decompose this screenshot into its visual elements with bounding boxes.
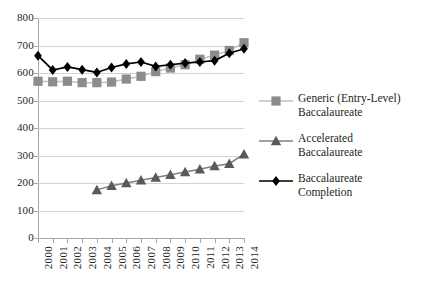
data-point-marker <box>92 185 102 194</box>
data-point-marker <box>64 62 72 72</box>
data-point-marker <box>195 164 205 173</box>
x-axis-tick-mark <box>244 239 245 243</box>
data-point-marker <box>92 78 101 87</box>
legend-entry-3[interactable]: BaccalaureateCompletion <box>258 172 436 199</box>
data-point-marker <box>108 63 116 73</box>
x-axis-tick-mark <box>82 239 83 243</box>
legend-label: Baccalaureate <box>298 106 436 120</box>
data-point-marker <box>272 176 280 186</box>
y-axis-tick-label: 400 <box>0 122 34 133</box>
x-axis-tick-label: 2013 <box>234 246 245 269</box>
y-axis-tick-label: 700 <box>0 40 34 51</box>
series-line <box>38 49 244 73</box>
data-point-marker <box>166 63 175 72</box>
gridline <box>38 73 244 74</box>
data-point-marker <box>210 51 219 60</box>
y-axis-tick-label: 100 <box>0 205 34 216</box>
chart-legend: Generic (Entry-Level)BaccalaureateAccele… <box>258 92 436 212</box>
data-point-marker <box>78 78 87 87</box>
data-point-marker <box>165 170 175 179</box>
data-point-marker <box>225 46 234 55</box>
x-axis-tick-label: 2008 <box>161 246 172 269</box>
x-axis-tick-mark <box>38 239 39 243</box>
data-point-marker <box>180 167 190 176</box>
series-line <box>97 154 244 190</box>
x-axis-tick-mark <box>141 239 142 243</box>
legend-entry-2[interactable]: AcceleratedBaccalaureate <box>258 132 436 159</box>
y-axis-tick-label: 0 <box>0 232 34 243</box>
legend-marker-diamond-icon <box>258 174 294 186</box>
gridline <box>38 101 244 102</box>
data-point-marker <box>271 96 280 105</box>
gridline <box>38 46 244 47</box>
legend-entry-1[interactable]: Generic (Entry-Level)Baccalaureate <box>258 92 436 119</box>
data-point-marker <box>209 161 219 170</box>
data-point-marker <box>224 159 234 168</box>
y-axis-tick-label: 200 <box>0 177 34 188</box>
gridline <box>38 128 244 129</box>
x-axis-tick-label: 2003 <box>87 246 98 269</box>
x-axis-tick-mark <box>156 239 157 243</box>
data-point-marker <box>63 77 72 86</box>
data-point-marker <box>239 149 249 158</box>
y-axis-tick-label: 300 <box>0 150 34 161</box>
x-axis-tick-mark <box>200 239 201 243</box>
data-point-marker <box>122 74 131 83</box>
data-point-marker <box>151 67 160 76</box>
x-axis-tick-label: 2002 <box>72 246 83 269</box>
x-axis-tick-label: 2012 <box>220 246 231 269</box>
data-point-marker <box>195 55 204 64</box>
data-point-marker <box>181 60 190 69</box>
legend-marker-square-icon <box>258 94 294 106</box>
y-axis-tick-label: 600 <box>0 67 34 78</box>
data-point-marker <box>122 59 130 69</box>
gridline <box>38 211 244 212</box>
x-axis-tick-mark <box>170 239 171 243</box>
data-point-marker <box>152 61 160 71</box>
x-axis-tick-label: 2010 <box>190 246 201 269</box>
data-point-marker <box>225 48 233 58</box>
x-axis-tick-label: 2005 <box>117 246 128 269</box>
x-axis-tick-mark <box>215 239 216 243</box>
y-axis-tick-label: 800 <box>0 12 34 23</box>
gridline <box>38 156 244 157</box>
legend-label: Baccalaureate <box>298 146 436 160</box>
x-axis-tick-mark <box>53 239 54 243</box>
legend-label: Accelerated <box>298 132 436 146</box>
x-axis-tick-mark <box>229 239 230 243</box>
data-point-marker <box>181 58 189 68</box>
legend-label: Completion <box>298 186 436 200</box>
x-axis-tick-label: 2006 <box>131 246 142 269</box>
gridline <box>38 18 244 19</box>
y-axis-tick-label: 500 <box>0 95 34 106</box>
data-point-marker <box>106 181 116 190</box>
legend-marker-triangle-icon <box>258 134 294 146</box>
x-axis-tick-label: 2011 <box>205 246 216 269</box>
x-axis-tick-mark <box>67 239 68 243</box>
data-point-marker <box>196 57 204 67</box>
x-axis-tick-mark <box>185 239 186 243</box>
x-axis-tick-label: 2001 <box>58 246 69 269</box>
x-axis-tick-mark <box>126 239 127 243</box>
x-axis-tick-label: 2014 <box>249 246 260 269</box>
data-point-marker <box>137 57 145 67</box>
x-axis-tick-label: 2004 <box>102 246 113 269</box>
legend-label: Generic (Entry-Level) <box>298 92 436 106</box>
series-line <box>38 43 244 83</box>
x-axis-tick-label: 2000 <box>43 246 54 269</box>
data-point-marker <box>211 56 219 66</box>
data-point-marker <box>107 77 116 86</box>
data-point-marker <box>167 60 175 70</box>
data-point-marker <box>151 172 161 181</box>
x-axis-tick-label: 2009 <box>175 246 186 269</box>
data-point-marker <box>48 77 57 86</box>
x-axis-tick-label: 2007 <box>146 246 157 269</box>
x-axis-tick-mark <box>112 239 113 243</box>
gridline <box>38 183 244 184</box>
legend-label: Baccalaureate <box>298 172 436 186</box>
x-axis-tick-mark <box>97 239 98 243</box>
chart-container: 0100200300400500600700800 20002001200220… <box>0 0 440 283</box>
